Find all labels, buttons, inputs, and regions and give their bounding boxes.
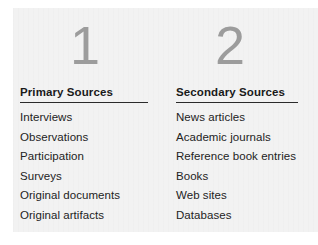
list-item: Original artifacts (20, 206, 120, 226)
list-primary-sources: Interviews Observations Participation Su… (20, 108, 120, 225)
column-heading-secondary-sources: Secondary Sources (176, 86, 285, 98)
list-item: Databases (176, 206, 296, 226)
list-item: Surveys (20, 167, 120, 187)
list-item: News articles (176, 108, 296, 128)
list-item: Original documents (20, 186, 120, 206)
heading-divider-secondary (176, 102, 298, 103)
column-number-2: 2 (215, 18, 245, 72)
column-number-1: 1 (70, 18, 100, 72)
list-item: Participation (20, 147, 120, 167)
list-item: Academic journals (176, 128, 296, 148)
list-secondary-sources: News articles Academic journals Referenc… (176, 108, 296, 225)
column-heading-primary-sources: Primary Sources (20, 86, 113, 98)
source-types-figure: 1 Primary Sources Interviews Observation… (0, 0, 318, 245)
list-item: Observations (20, 128, 120, 148)
list-item: Books (176, 167, 296, 187)
list-item: Web sites (176, 186, 296, 206)
list-item: Interviews (20, 108, 120, 128)
columns-container: 1 Primary Sources Interviews Observation… (0, 0, 318, 245)
list-item: Reference book entries (176, 147, 296, 167)
heading-divider-primary (20, 102, 148, 103)
